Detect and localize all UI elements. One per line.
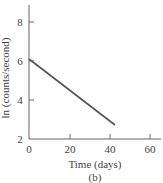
y-tick-label-4: 4 xyxy=(17,94,23,106)
x-tick-label-40: 40 xyxy=(105,143,117,155)
y-tick-label-2: 2 xyxy=(17,133,23,145)
x-axis-label: Time (days) xyxy=(68,158,121,171)
x-tick-label-20: 20 xyxy=(65,143,77,155)
y-tick-label-8: 8 xyxy=(17,16,23,28)
x-tick-label-0: 0 xyxy=(26,143,32,155)
caption: (b) xyxy=(89,171,102,183)
y-tick-label-6: 6 xyxy=(17,55,23,67)
x-tick-label-60: 60 xyxy=(145,143,157,155)
data-line xyxy=(29,59,115,125)
y-axis-label: ln (counts/second) xyxy=(0,37,12,118)
chart: 8 6 4 2 0 20 40 60 Time (days) ln (count… xyxy=(0,0,163,183)
